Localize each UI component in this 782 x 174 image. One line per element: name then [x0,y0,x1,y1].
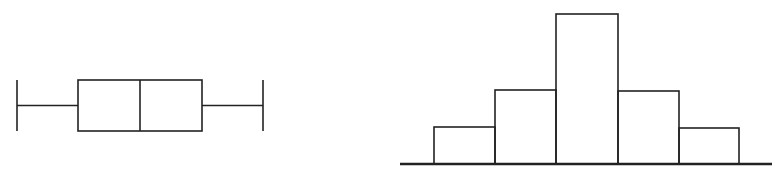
chart-canvas [0,0,782,174]
histogram-bar [556,14,618,164]
histogram-bar [618,91,679,164]
histogram-bar [434,127,495,164]
histogram [400,14,772,164]
histogram-bar [495,90,556,164]
histogram-bar [679,128,739,164]
box-plot [17,80,263,131]
